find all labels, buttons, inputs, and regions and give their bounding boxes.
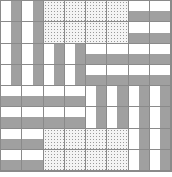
pattern-cell-dotted: [44, 129, 65, 150]
pattern-cell-vertical-stripes: [129, 150, 150, 171]
pattern-cell-vertical-stripes: [65, 44, 86, 65]
pattern-cell-dotted: [107, 129, 128, 150]
pattern-cell-horizontal-stripes: [22, 150, 43, 171]
pattern-cell-horizontal-stripes: [1, 107, 22, 128]
pattern-cell-vertical-stripes: [1, 44, 22, 65]
pattern-cell-horizontal-stripes: [1, 86, 22, 107]
pattern-cell-horizontal-stripes: [129, 44, 150, 65]
pattern-cell-vertical-stripes: [1, 1, 22, 22]
pattern-cell-horizontal-stripes: [150, 65, 171, 86]
pattern-cell-vertical-stripes: [107, 86, 128, 107]
pattern-cell-vertical-stripes: [129, 86, 150, 107]
pattern-cell-dotted: [65, 150, 86, 171]
pattern-cell-dotted: [86, 22, 107, 43]
pattern-cell-vertical-stripes: [150, 150, 171, 171]
pattern-cell-vertical-stripes: [129, 129, 150, 150]
pattern-cell-dotted: [86, 1, 107, 22]
pattern-cell-dotted: [107, 150, 128, 171]
pattern-cell-vertical-stripes: [150, 107, 171, 128]
pattern-cell-vertical-stripes: [150, 129, 171, 150]
pattern-cell-vertical-stripes: [107, 107, 128, 128]
pattern-cell-dotted: [107, 1, 128, 22]
pattern-cell-horizontal-stripes: [22, 129, 43, 150]
pattern-cell-dotted: [44, 22, 65, 43]
pattern-cell-dotted: [65, 22, 86, 43]
pattern-cell-vertical-stripes: [44, 65, 65, 86]
pattern-cell-horizontal-stripes: [65, 107, 86, 128]
pattern-cell-vertical-stripes: [22, 44, 43, 65]
pattern-cell-vertical-stripes: [1, 22, 22, 43]
pattern-cell-dotted: [65, 129, 86, 150]
pattern-cell-horizontal-stripes: [107, 65, 128, 86]
pattern-cell-horizontal-stripes: [107, 44, 128, 65]
pattern-cell-vertical-stripes: [44, 44, 65, 65]
pattern-cell-horizontal-stripes: [1, 150, 22, 171]
pattern-cell-horizontal-stripes: [129, 22, 150, 43]
pattern-cell-vertical-stripes: [22, 22, 43, 43]
pattern-board: [0, 0, 172, 172]
pattern-cell-horizontal-stripes: [86, 65, 107, 86]
pattern-cell-horizontal-stripes: [22, 86, 43, 107]
pattern-cell-vertical-stripes: [1, 65, 22, 86]
pattern-cell-horizontal-stripes: [150, 44, 171, 65]
pattern-cell-dotted: [65, 1, 86, 22]
pattern-cell-dotted: [44, 150, 65, 171]
pattern-cell-horizontal-stripes: [150, 1, 171, 22]
pattern-cell-horizontal-stripes: [1, 129, 22, 150]
pattern-cell-dotted: [107, 22, 128, 43]
pattern-cell-dotted: [44, 1, 65, 22]
pattern-cell-dotted: [86, 150, 107, 171]
pattern-cell-vertical-stripes: [86, 86, 107, 107]
pattern-cell-vertical-stripes: [65, 65, 86, 86]
pattern-cell-dotted: [86, 129, 107, 150]
pattern-cell-horizontal-stripes: [86, 44, 107, 65]
pattern-cell-vertical-stripes: [150, 86, 171, 107]
pattern-cell-horizontal-stripes: [22, 107, 43, 128]
pattern-cell-horizontal-stripes: [44, 107, 65, 128]
pattern-cell-vertical-stripes: [86, 107, 107, 128]
pattern-cell-vertical-stripes: [22, 65, 43, 86]
pattern-cell-horizontal-stripes: [44, 86, 65, 107]
pattern-cell-horizontal-stripes: [65, 86, 86, 107]
pattern-cell-vertical-stripes: [129, 107, 150, 128]
pattern-cell-horizontal-stripes: [129, 1, 150, 22]
pattern-cell-vertical-stripes: [22, 1, 43, 22]
pattern-cell-horizontal-stripes: [150, 22, 171, 43]
pattern-cell-horizontal-stripes: [129, 65, 150, 86]
